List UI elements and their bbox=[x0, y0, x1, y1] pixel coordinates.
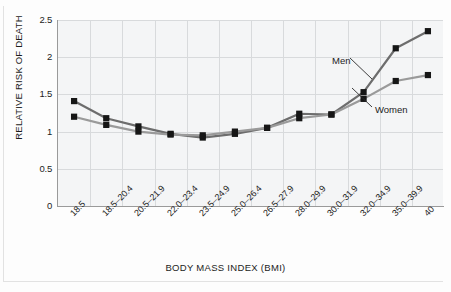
chart-figure: RELATIVE RISK OF DEATH 2.521.510.50 18.5… bbox=[0, 0, 451, 292]
annotation-leader-line bbox=[350, 58, 372, 79]
annotation-leader-lines bbox=[0, 0, 451, 292]
series-label-men: Men bbox=[332, 55, 350, 66]
annotation-leader-line bbox=[352, 88, 372, 107]
series-label-women: Women bbox=[375, 104, 408, 115]
